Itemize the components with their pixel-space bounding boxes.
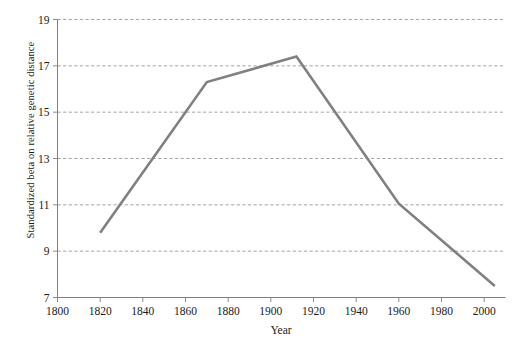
y-tick-group: 791113151719 [38, 14, 58, 304]
y-tick-label-13: 13 [38, 153, 50, 165]
line-chart-figure: Standardized beta on relative genetic di… [0, 0, 515, 345]
x-tick-label-1960: 1960 [387, 305, 410, 317]
x-tick-label-1920: 1920 [302, 305, 325, 317]
plot-area: 791113151719 180018201840186018801900192… [0, 0, 515, 345]
y-tick-label-17: 17 [38, 60, 50, 72]
x-tick-group: 1800182018401860188019001920194019601980… [46, 298, 496, 317]
y-tick-label-9: 9 [44, 245, 50, 257]
x-tick-label-1940: 1940 [345, 305, 368, 317]
x-tick-label-1860: 1860 [174, 305, 197, 317]
x-tick-label-2000: 2000 [473, 305, 496, 317]
y-tick-label-15: 15 [38, 106, 50, 118]
x-tick-label-1800: 1800 [46, 305, 69, 317]
x-tick-label-1840: 1840 [131, 305, 154, 317]
x-tick-label-1980: 1980 [430, 305, 453, 317]
x-tick-label-1900: 1900 [259, 305, 282, 317]
y-tick-label-7: 7 [44, 292, 50, 304]
y-tick-label-11: 11 [38, 199, 49, 211]
y-tick-label-19: 19 [38, 14, 50, 26]
x-tick-label-1880: 1880 [217, 305, 240, 317]
x-tick-label-1820: 1820 [89, 305, 112, 317]
